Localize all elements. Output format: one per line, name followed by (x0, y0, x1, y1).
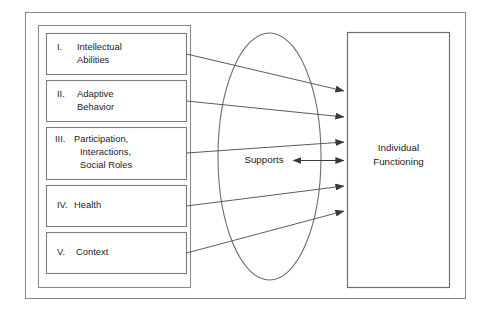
dimension-label-intellectual-abilities-line-1: Intellectual (77, 41, 122, 52)
supports-model-diagram: I. Intellectual Abilities II. Adaptive B… (0, 0, 487, 318)
connector-health (187, 186, 345, 206)
dimension-numeral-context: V. (57, 246, 65, 257)
dimension-label-intellectual-abilities-line-2: Abilities (77, 54, 110, 65)
dimension-numeral-adaptive-behavior: II. (57, 88, 65, 99)
dimension-label-health-line-1: Health (74, 199, 101, 210)
dimension-label-participation-line-2: Interactions, (80, 146, 131, 157)
dimension-label-context-line-1: Context (76, 246, 109, 257)
outcome-label-line-1: Individual (378, 142, 419, 153)
dimension-box-intellectual-abilities[interactable] (47, 34, 187, 75)
dimension-label-adaptive-behavior-line-1: Adaptive (77, 88, 113, 99)
dimension-box-adaptive-behavior[interactable] (47, 81, 187, 122)
dimension-numeral-health: IV. (57, 199, 68, 210)
supports-label: Supports (244, 154, 283, 165)
connector-intellectual-abilities (187, 54, 345, 91)
connector-adaptive-behavior (187, 101, 345, 117)
dimension-numeral-participation-interactions-social-roles: III. (55, 133, 65, 144)
dimension-box-context[interactable] (47, 233, 187, 274)
dimension-label-participation-line-3: Social Roles (80, 159, 132, 170)
connector-context (187, 211, 345, 253)
figure-root: I. Intellectual Abilities II. Adaptive B… (0, 0, 487, 318)
dimension-numeral-intellectual-abilities: I. (57, 41, 62, 52)
dimension-label-participation-line-1: Participation, (74, 133, 128, 144)
outcome-label-line-2: Functioning (373, 156, 424, 167)
dimension-label-adaptive-behavior-line-2: Behavior (77, 101, 114, 112)
